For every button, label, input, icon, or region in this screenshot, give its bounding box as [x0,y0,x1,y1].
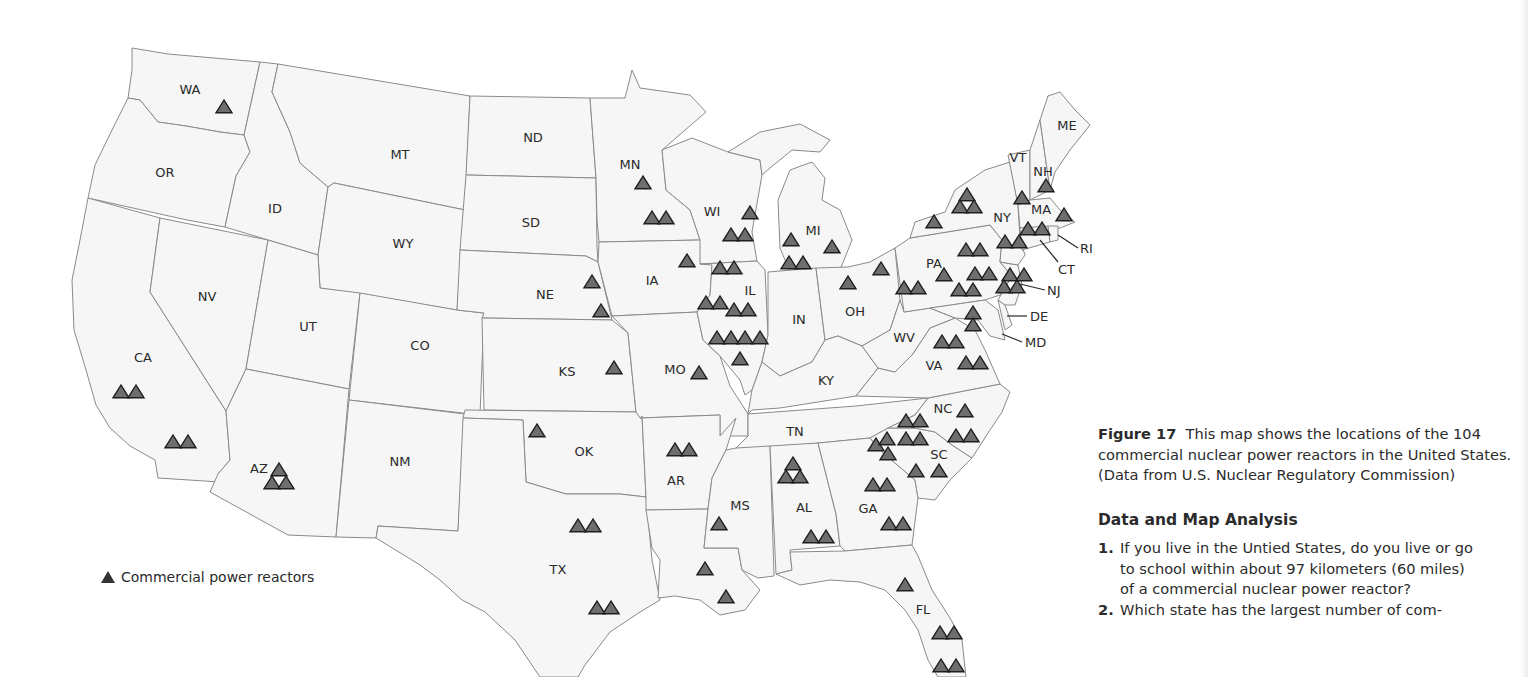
state-label-tx: TX [549,562,567,577]
state-label-wa: WA [179,82,200,97]
state-label-or: OR [155,165,174,180]
state-label-fl: FL [916,602,931,617]
state-label-ar: AR [667,473,685,488]
state-label-ny: NY [993,210,1011,225]
state-fl [776,545,966,677]
state-label-nj: NJ [1047,283,1061,298]
state-label-nh: NH [1033,164,1053,179]
state-label-mn: MN [620,157,641,172]
state-label-ut: UT [299,319,317,334]
state-co [349,293,484,415]
state-label-co: CO [410,338,429,353]
state-label-nm: NM [390,454,411,469]
state-label-ms: MS [730,498,749,513]
leader-nj [1020,284,1045,290]
state-label-wi: WI [704,204,721,219]
state-label-mi: MI [805,223,820,238]
question-item: 1. If you live in the Untied States, do … [1098,538,1523,600]
state-label-ga: GA [859,501,878,516]
state-label-md: MD [1025,335,1046,350]
map-legend: Commercial power reactors [101,569,314,585]
state-label-ks: KS [559,364,576,379]
question-list: 1. If you live in the Untied States, do … [1098,538,1523,620]
state-label-in: IN [792,312,806,327]
reactor-triangle-icon [101,571,115,583]
state-label-me: ME [1057,118,1076,133]
legend-label: Commercial power reactors [121,569,314,585]
state-label-ia: IA [646,273,659,288]
question-text: Which state has the largest number of co… [1120,600,1442,621]
state-label-pa: PA [926,256,942,271]
state-label-ma: MA [1031,202,1051,217]
question-item: 2. Which state has the largest number of… [1098,600,1523,621]
state-label-ok: OK [575,444,594,459]
question-text: If you live in the Untied States, do you… [1120,538,1473,600]
figure-label: Figure 17 [1098,425,1176,442]
state-label-nc: NC [934,401,953,416]
leader-ct [1040,240,1058,262]
question-number: 1. [1098,538,1120,600]
state-label-de: DE [1030,309,1048,324]
page-edge-shadow [1520,0,1528,677]
state-label-mt: MT [390,147,409,162]
state-label-ca: CA [134,350,152,365]
state-label-wy: WY [393,236,414,251]
state-label-al: AL [796,500,813,515]
analysis-title: Data and Map Analysis [1098,511,1298,529]
figure-caption: Figure 17 This map shows the locations o… [1098,424,1518,486]
state-label-tn: TN [785,424,804,439]
state-label-id: ID [268,201,282,216]
state-label-ri: RI [1080,241,1093,256]
state-label-ct: CT [1058,262,1075,277]
state-label-nv: NV [198,289,217,304]
state-label-mo: MO [664,362,685,377]
state-nm [336,400,465,538]
state-label-il: IL [744,283,756,298]
state-label-oh: OH [845,304,865,319]
state-label-nd: ND [523,130,543,145]
leader-ri [1058,235,1078,248]
state-label-ky: KY [818,373,834,388]
state-label-wv: WV [893,330,915,345]
state-label-sd: SD [522,215,540,230]
state-label-va: VA [926,358,943,373]
question-number: 2. [1098,600,1120,621]
state-label-ne: NE [536,287,554,302]
state-label-vt: VT [1010,150,1027,165]
state-label-sc: SC [930,447,947,462]
state-label-az: AZ [250,461,268,476]
